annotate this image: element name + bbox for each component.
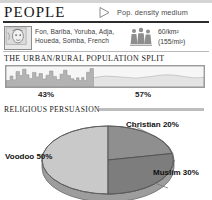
- people-crowd-icon: [130, 27, 152, 47]
- density-metric: 60/km²: [158, 28, 179, 35]
- urban-rural-percentages: 43% 57%: [0, 90, 212, 101]
- triangle-right-icon: [98, 6, 111, 19]
- panel-header: PEOPLE Pop. density medium: [0, 3, 212, 23]
- urban-rural-title: THE URBAN/RURAL POPULATION SPLIT: [4, 54, 164, 63]
- page-title: PEOPLE: [4, 3, 66, 21]
- religion-title-rule: [99, 108, 204, 111]
- pie-label-voodoo: Voodoo 50%: [5, 152, 52, 161]
- pie-label-muslim: Muslim 30%: [153, 168, 199, 177]
- density-imperial: (155/mi²): [158, 38, 185, 45]
- people-infographic-panel: PEOPLE Pop. density medium Fon, Bariba, …: [0, 0, 212, 200]
- face-portrait-icon: [4, 26, 32, 50]
- pie-label-christian: Christian 20%: [126, 120, 179, 129]
- facts-divider: [3, 51, 209, 52]
- religion-pie-chart: Christian 20% Muslim 30% Voodoo 50%: [0, 112, 212, 200]
- ethnic-languages-text: Fon, Bariba, Yoruba, Adja, Houeda, Somba…: [35, 27, 127, 45]
- facts-row: Fon, Bariba, Yoruba, Adja, Houeda, Somba…: [0, 25, 212, 51]
- pop-density-note: Pop. density medium: [117, 8, 188, 17]
- header-divider: [3, 21, 209, 23]
- urban-percentage: 43%: [38, 90, 54, 99]
- urban-rural-split-chart: [5, 65, 205, 88]
- rural-percentage: 57%: [135, 90, 151, 99]
- population-density-value: 60/km² (155/mi²): [158, 27, 185, 46]
